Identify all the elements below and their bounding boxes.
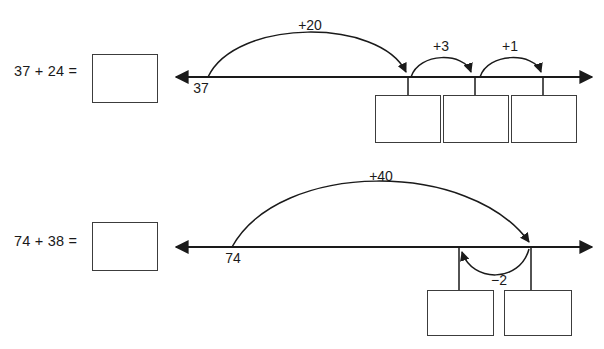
step-box-1-3[interactable]	[511, 95, 577, 143]
problem-2-number-line	[176, 181, 592, 291]
answer-box-2[interactable]	[92, 222, 158, 271]
equation-label-1: 37 + 24 =	[14, 63, 77, 79]
step-box-2-1[interactable]	[427, 290, 494, 336]
step-box-2-2[interactable]	[504, 290, 572, 336]
jump-arc-minus2	[462, 249, 529, 275]
jump-label-plus1: +1	[502, 38, 518, 54]
equation-label-2: 74 + 38 =	[14, 233, 77, 249]
jump-label-plus20: +20	[298, 17, 322, 33]
start-tick-label-2: 74	[225, 250, 241, 266]
jump-arc-plus3	[411, 58, 471, 77]
start-tick-label-1: 37	[193, 80, 209, 96]
answer-box-1[interactable]	[92, 54, 158, 103]
problem-1-number-line	[176, 32, 592, 96]
jump-label-minus2: −2	[491, 272, 507, 288]
jump-arc-plus40	[232, 181, 529, 247]
step-box-1-1[interactable]	[375, 95, 441, 143]
jump-arc-plus20	[208, 32, 406, 77]
jump-label-plus40: +40	[369, 168, 393, 184]
jump-label-plus3: +3	[433, 38, 449, 54]
jump-arc-plus1	[480, 58, 541, 77]
step-box-1-2[interactable]	[443, 95, 509, 143]
worksheet-page: 37 + 24 = 37 +20 +3 +1 74 + 38 = 74 +40 …	[0, 0, 604, 349]
